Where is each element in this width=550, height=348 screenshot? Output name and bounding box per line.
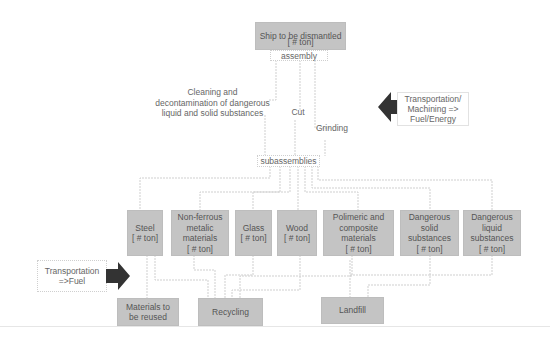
output-box-landfill: Landfill	[321, 297, 384, 324]
cleaning-process-label: Cleaning and decontamination of dangerou…	[150, 87, 275, 119]
transportation-machining-energy-box: Transportation/ Machining => Fuel/Energy	[397, 92, 469, 126]
page-divider	[0, 326, 550, 327]
right-arrow-icon	[106, 262, 130, 290]
material-box-dangerous-liquid: Dangerous liquid substances [ # ton]	[463, 210, 521, 256]
material-box-wood: Wood [ # ton]	[277, 210, 317, 256]
material-box-glass: Glass [ # ton]	[235, 210, 272, 256]
ship-quantity: [ # ton]	[255, 37, 346, 48]
cut-process-label: Cut	[287, 107, 309, 118]
assembly-label: assembly	[270, 50, 328, 61]
material-box-non-ferrous: Non-ferrous metalic materials [ # ton]	[171, 210, 229, 256]
transportation-fuel-box: Transportation =>Fuel	[37, 260, 107, 292]
output-box-recycling: Recycling	[198, 298, 263, 326]
subassemblies-label: subassemblies	[257, 155, 320, 167]
dismantling-flow-diagram: Ship to be dismantled [ # ton] assembly …	[0, 0, 550, 348]
grinding-process-label: Grinding	[312, 123, 352, 134]
material-box-polimeric: Polimeric and composite materials [ # to…	[323, 210, 394, 256]
material-box-steel: Steel [ # ton]	[127, 210, 163, 256]
material-box-dangerous-solid: Dangerous solid substances [ # ton]	[400, 210, 459, 256]
output-box-materials-reused: Materials to be reused	[117, 298, 179, 326]
